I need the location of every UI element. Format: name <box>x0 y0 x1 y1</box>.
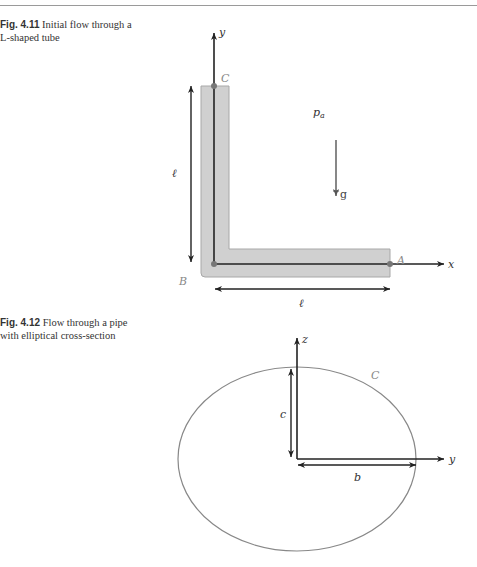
l-shaped-tube <box>201 86 390 277</box>
point-a-label: A <box>396 254 405 267</box>
z-axis-label: z <box>301 333 308 346</box>
x-axis-label: x <box>448 258 455 271</box>
point-c-label: C <box>221 72 230 85</box>
point-b-label: B <box>178 275 187 288</box>
y-axis-label: y <box>218 26 226 39</box>
figures-canvas: y x C B A ℓ ℓ pa g z y C c b <box>0 0 477 567</box>
point-c-marker <box>211 83 217 89</box>
figure-4-11-diagram: y x C B A ℓ ℓ pa g <box>172 26 455 310</box>
y-axis-label: y <box>448 453 456 466</box>
pressure-label: pa <box>313 106 325 120</box>
gravity-label: g <box>340 188 347 201</box>
horizontal-length-label: ℓ <box>299 297 304 310</box>
point-b-marker <box>211 261 217 267</box>
figure-4-12-diagram: z y C c b <box>178 333 456 551</box>
curve-c-label: C <box>371 369 380 382</box>
vertical-length-label: ℓ <box>172 167 177 180</box>
point-a-marker <box>387 261 393 267</box>
vertical-semi-axis-label: c <box>280 408 286 421</box>
horizontal-semi-axis-label: b <box>354 471 361 484</box>
